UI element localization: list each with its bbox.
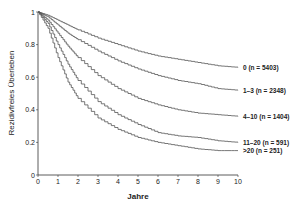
curve-labels: 0 (n = 5403)1–3 (n = 2348)4–10 (n = 1404…: [243, 64, 289, 155]
x-tick-label: 1: [56, 178, 60, 185]
y-tick-label: 0.4: [25, 106, 35, 113]
y-tick-label: 0.8: [25, 41, 35, 48]
x-tick-label: 3: [96, 178, 100, 185]
x-tick-label: 8: [196, 178, 200, 185]
x-axis-label: Jahre: [127, 192, 149, 201]
x-tick-label: 4: [116, 178, 120, 185]
curve-label: 4–10 (n = 1404): [243, 113, 289, 121]
curve-label: 1–3 (n = 2348): [243, 87, 286, 95]
x-tick-label: 7: [176, 178, 180, 185]
curve-label: 0 (n = 5403): [243, 64, 279, 72]
x-tick-label: 10: [234, 178, 242, 185]
survival-chart: 01234567891000.20.40.60.81 0 (n = 5403)1…: [0, 0, 307, 209]
y-tick-label: 0.2: [25, 139, 35, 146]
x-tick-label: 2: [76, 178, 80, 185]
x-tick-label: 0: [36, 178, 40, 185]
x-tick-label: 9: [216, 178, 220, 185]
survival-curves: [38, 12, 238, 151]
curve-label: 11–20 (n = 591): [243, 139, 289, 147]
axes: 01234567891000.20.40.60.81: [25, 9, 242, 186]
curve-label: >20 (n = 251): [243, 147, 282, 155]
y-tick-label: 0: [31, 172, 35, 179]
y-axis-label: Rezidivfreies Überleben: [7, 51, 16, 136]
y-tick-label: 1: [31, 9, 35, 16]
x-tick-label: 5: [136, 178, 140, 185]
y-tick-label: 0.6: [25, 74, 35, 81]
x-tick-label: 6: [156, 178, 160, 185]
survival-curve: [38, 12, 238, 67]
